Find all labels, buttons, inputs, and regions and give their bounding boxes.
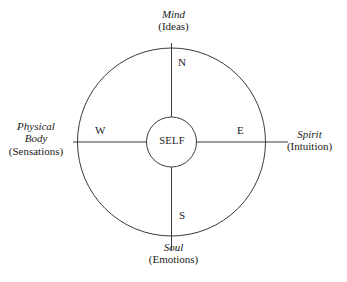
cardinal-north-label: N bbox=[178, 56, 186, 68]
quadrant-label-spirit-parenthetical: (Intuition) bbox=[272, 140, 347, 152]
quadrant-label-soul-name: Soul bbox=[0, 241, 347, 253]
quadrant-label-mind-name: Mind bbox=[0, 8, 347, 20]
quadrant-label-physical-body: Physical Body (Sensations) bbox=[0, 120, 72, 157]
self-quadrant-diagram: SELF N S W E Mind (Ideas) Spirit (Intuit… bbox=[0, 0, 347, 282]
quadrant-label-spirit: Spirit (Intuition) bbox=[272, 128, 347, 153]
cardinal-east-label: E bbox=[237, 124, 244, 136]
self-center-label: SELF bbox=[147, 135, 197, 146]
quadrant-label-physical-body-parenthetical: (Sensations) bbox=[0, 145, 72, 157]
quadrant-label-spirit-name: Spirit bbox=[272, 128, 347, 140]
quadrant-label-soul: Soul (Emotions) bbox=[0, 241, 347, 266]
quadrant-label-mind: Mind (Ideas) bbox=[0, 8, 347, 33]
quadrant-label-mind-parenthetical: (Ideas) bbox=[0, 20, 347, 32]
quadrant-label-soul-parenthetical: (Emotions) bbox=[0, 253, 347, 265]
quadrant-label-physical-body-name-line2: Body bbox=[0, 132, 72, 144]
cardinal-west-label: W bbox=[95, 124, 105, 136]
cardinal-south-label: S bbox=[179, 209, 185, 221]
quadrant-label-physical-body-name-line1: Physical bbox=[0, 120, 72, 132]
